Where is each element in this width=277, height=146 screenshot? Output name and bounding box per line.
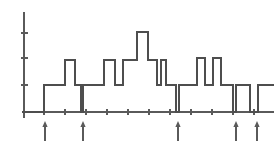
plot-canvas [0, 0, 277, 146]
step-plot-figure [0, 0, 277, 146]
marker-5 [254, 121, 259, 141]
arrow-up-icon [175, 121, 180, 127]
arrow-up-icon [254, 121, 259, 127]
marker-4 [233, 121, 238, 141]
marker-2 [80, 121, 85, 141]
step-series-path [22, 32, 274, 112]
arrow-up-icon [80, 121, 85, 127]
step-series-group [22, 32, 274, 112]
marker-3 [175, 121, 180, 141]
arrow-up-icon [233, 121, 238, 127]
marker-1 [42, 121, 47, 141]
arrow-up-icon [42, 121, 47, 127]
change-point-marker-group [42, 121, 259, 141]
